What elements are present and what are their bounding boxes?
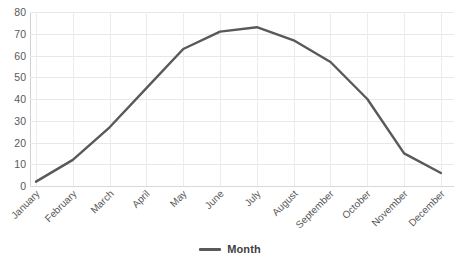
line-chart: 80706050403020100 JanuaryFebruaryMarchAp… [0,0,460,269]
y-tick-label-20: 20 [2,137,26,148]
x-tick-label-august: August [270,188,300,218]
y-tick-label-80: 80 [2,7,26,18]
y-axis: 80706050403020100 [0,12,26,186]
y-tick-label-40: 40 [2,94,26,105]
x-tick-label-january: January [9,188,42,221]
y-tick-label-50: 50 [2,72,26,83]
y-tick-label-0: 0 [2,181,26,192]
y-tick-label-30: 30 [2,116,26,127]
x-tick-label-may: May [168,188,189,209]
x-tick-label-march: March [88,188,115,215]
plot-area [30,12,454,186]
x-tick-label-april: April [130,188,152,210]
x-tick-label-february: February [43,188,79,224]
x-tick-label-june: June [203,188,226,211]
y-tick-label-10: 10 [2,159,26,170]
series-month-line [30,12,454,186]
chart-title [30,0,230,8]
x-tick-label-july: July [242,188,262,208]
legend-label-month: Month [227,243,260,255]
x-tick-label-november: November [369,188,409,228]
y-tick-label-70: 70 [2,29,26,40]
x-axis: JanuaryFebruaryMarchAprilMayJuneJulyAugu… [30,186,454,242]
x-tick-label-october: October [340,188,373,221]
x-tick-label-september: September [294,188,336,230]
chart-legend: Month [0,243,460,255]
y-tick-label-60: 60 [2,50,26,61]
legend-swatch-month [199,248,221,251]
x-tick-label-december: December [406,188,446,228]
